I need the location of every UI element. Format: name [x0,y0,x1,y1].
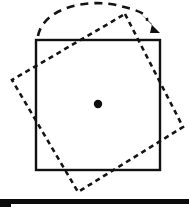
rotation-figure: Rotation of a square about its centre [0,0,189,211]
page-rule-notch [11,204,189,207]
centre-of-rotation-dot [94,100,102,108]
figure-canvas [0,0,189,211]
